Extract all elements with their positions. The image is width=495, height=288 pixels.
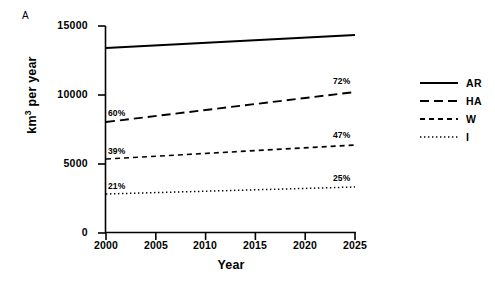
figure-panel-a: A km3 per year Year 0 5000 10000 15000 2… [0,0,495,288]
plot-area [0,0,495,288]
legend-label-w: W [466,113,476,125]
series-line-ha [106,92,355,122]
series-line-i [106,187,355,194]
series-line-w [106,145,355,159]
legend-label-ar: AR [466,77,482,89]
legend-label-ha: HA [466,95,482,107]
legend-label-i: I [466,131,469,143]
series-line-ar [106,35,355,48]
